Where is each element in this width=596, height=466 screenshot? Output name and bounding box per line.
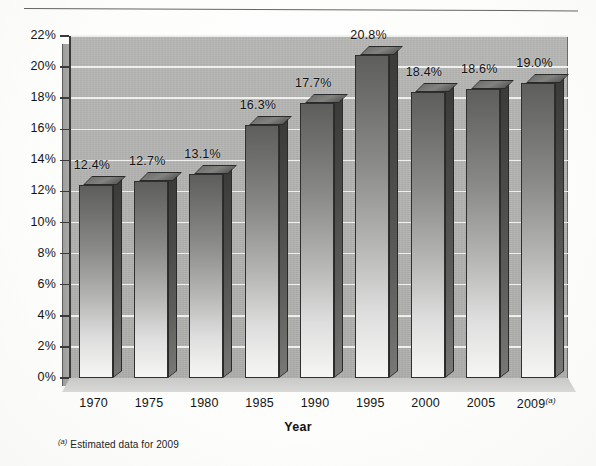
bar-front-face	[189, 174, 223, 378]
y-axis-tick-label: 12%	[12, 183, 56, 197]
bar-side-face	[555, 76, 564, 378]
y-axis-tick-label: 0%	[12, 370, 56, 384]
bar-side-face	[389, 48, 398, 378]
bar-front-face	[411, 92, 445, 378]
bar-side-face	[113, 178, 122, 378]
y-axis-tick	[60, 222, 69, 224]
x-axis-tick-label: 2000	[398, 396, 453, 410]
y-axis-tick-label: 10%	[12, 215, 56, 229]
y-axis-tick	[60, 160, 69, 162]
bar-front-face	[466, 89, 500, 378]
bar[interactable]	[79, 185, 113, 378]
y-axis-tick-label: 16%	[12, 121, 56, 135]
bar-front-face	[355, 55, 389, 378]
bar-side-face	[279, 118, 288, 378]
bar-value-label: 17.7%	[295, 76, 331, 90]
bar-front-face	[300, 103, 334, 378]
bar-value-label: 20.8%	[350, 28, 386, 42]
bar[interactable]	[355, 55, 389, 378]
y-axis-tick	[60, 191, 69, 193]
bar-side-face	[445, 85, 454, 378]
x-axis-title: Year	[0, 420, 596, 434]
y-axis-line	[69, 36, 71, 378]
x-axis-tick-label: 1975	[121, 396, 176, 410]
y-axis-tick	[60, 315, 69, 317]
bar-side-face	[223, 167, 232, 378]
y-axis-tick-label: 22%	[12, 28, 56, 42]
y-axis-tick	[60, 35, 69, 37]
bar-value-label: 13.1%	[184, 147, 220, 161]
bar-side-face	[500, 82, 509, 378]
bar-front-face	[521, 83, 555, 378]
footnote-text: Estimated data for 2009	[70, 439, 178, 450]
y-axis-tick	[60, 129, 69, 131]
bar-chart: 0%2%4%6%8%10%12%14%16%18%20%22% 12.4%12.…	[0, 0, 596, 466]
x-axis-label-footnote-marker: (a)	[545, 396, 555, 405]
chart-footnote: (a) Estimated data for 2009	[58, 437, 179, 450]
bar-value-label: 18.4%	[406, 65, 442, 79]
y-axis-tick-label: 8%	[12, 246, 56, 260]
x-axis-tick-label: 1980	[177, 396, 232, 410]
bar[interactable]	[466, 89, 500, 378]
y-axis-tick-label: 2%	[12, 339, 56, 353]
bar[interactable]	[134, 181, 168, 378]
bar-front-face	[79, 185, 113, 378]
y-axis-tick-label: 14%	[12, 152, 56, 166]
y-axis-tick	[60, 284, 69, 286]
bar-value-label: 19.0%	[516, 56, 552, 70]
bar-value-label: 12.7%	[129, 154, 165, 168]
bar-front-face	[245, 125, 279, 378]
bar-value-label: 16.3%	[240, 98, 276, 112]
y-axis-tick	[60, 253, 69, 255]
gridline	[70, 35, 568, 37]
bar-value-label: 12.4%	[74, 158, 110, 172]
bar[interactable]	[189, 174, 223, 378]
x-axis-tick-label: 1995	[343, 396, 398, 410]
x-axis-tick-label: 1970	[66, 396, 121, 410]
bar-side-face	[334, 96, 343, 378]
bar-value-label: 18.6%	[461, 62, 497, 76]
bar[interactable]	[300, 103, 334, 378]
y-axis-tick-label: 20%	[12, 59, 56, 73]
plot-floor	[62, 378, 576, 392]
bar[interactable]	[411, 92, 445, 378]
x-axis-tick-label: 1985	[232, 396, 287, 410]
y-axis-tick	[60, 97, 69, 99]
x-axis-tick-label: 1990	[287, 396, 342, 410]
bar[interactable]	[521, 83, 555, 378]
y-axis-tick-label: 18%	[12, 90, 56, 104]
footnote-marker: (a)	[58, 437, 67, 446]
bar-front-face	[134, 181, 168, 378]
y-axis-tick-label: 6%	[12, 277, 56, 291]
y-axis-tick	[60, 377, 69, 379]
y-axis-tick-label: 4%	[12, 308, 56, 322]
bar-side-face	[168, 174, 177, 378]
bar[interactable]	[245, 125, 279, 378]
y-axis-tick	[60, 66, 69, 68]
y-axis-tick	[60, 346, 69, 348]
x-axis-tick-label: 2009(a)	[509, 396, 564, 411]
x-axis-tick-label: 2005	[453, 396, 508, 410]
